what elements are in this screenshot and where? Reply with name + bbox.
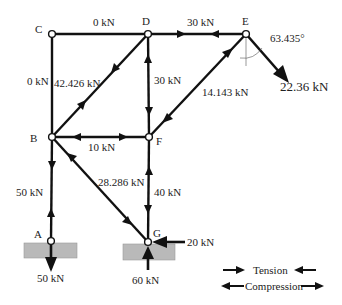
node-b — [49, 134, 56, 141]
node-label-d: D — [142, 15, 150, 27]
label-bf: 10 kN — [88, 141, 115, 153]
member-fg — [148, 137, 149, 242]
node-d — [145, 31, 152, 38]
member-ba — [51, 137, 52, 241]
legend-tension-arrow-icon — [236, 266, 245, 274]
label-g-vertical: 60 kN — [132, 274, 159, 286]
legend-compression-label: Compression — [245, 280, 304, 292]
arrow-icon — [72, 133, 81, 141]
label-e-load: 22.36 kN — [280, 79, 329, 94]
node-label-e: E — [242, 15, 249, 27]
node-label-b: B — [30, 132, 37, 144]
legend-tension-label: Tension — [253, 264, 288, 276]
arrow-icon — [67, 153, 77, 162]
arrow-icon — [145, 166, 153, 175]
legend-compression-arrow-icon — [315, 282, 324, 290]
label-df: 30 kN — [154, 74, 181, 86]
node-label-c: C — [35, 23, 42, 35]
arrow-icon — [48, 161, 56, 170]
label-bd: 42.426 kN — [54, 77, 101, 89]
truss-diagram: C D E B F A G 0 kN 30 kN 0 kN 42.426 kN … — [0, 0, 342, 305]
arrow-icon — [122, 216, 132, 225]
arrow-icon — [47, 208, 55, 217]
node-f — [146, 134, 153, 141]
label-bg: 28.286 kN — [98, 176, 145, 188]
arrow-icon — [210, 30, 219, 38]
label-de: 30 kN — [187, 16, 214, 28]
legend: Tension Compression — [221, 264, 324, 292]
node-c — [49, 31, 56, 38]
node-a — [48, 238, 55, 245]
legend-compression-arrow-icon — [221, 282, 230, 290]
label-a-load: 50 kN — [37, 272, 64, 284]
arrow-icon — [144, 54, 152, 63]
node-e — [243, 31, 250, 38]
label-e-angle: 63.435° — [270, 32, 305, 44]
node-g — [145, 239, 152, 246]
label-g-horizontal: 20 kN — [187, 236, 214, 248]
external-loads — [45, 34, 289, 272]
legend-tension-arrow-icon — [294, 266, 303, 274]
node-label-f: F — [156, 135, 162, 147]
arrow-icon — [145, 107, 153, 116]
arrow-icon — [144, 205, 152, 214]
label-cb: 0 kN — [27, 75, 49, 87]
node-label-a: A — [34, 228, 42, 240]
load-a-arrow-icon — [45, 257, 57, 272]
node-label-g: G — [153, 227, 161, 239]
label-fg: 40 kN — [154, 186, 181, 198]
label-cd: 0 kN — [93, 16, 115, 28]
label-fe: 14.143 kN — [202, 86, 249, 98]
member-force-arrows — [47, 30, 233, 225]
arrow-icon — [177, 30, 186, 38]
label-ba: 50 kN — [16, 186, 43, 198]
arrow-icon — [119, 133, 128, 141]
member-df — [148, 34, 149, 137]
